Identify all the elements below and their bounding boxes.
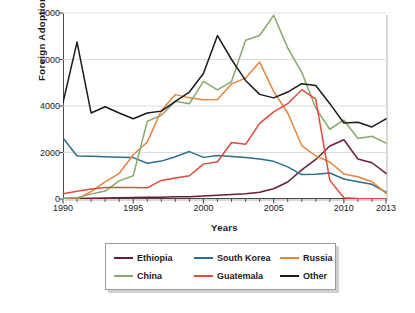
x-axis-tick-1995: 1995 xyxy=(123,203,143,213)
legend-swatch-icon xyxy=(280,257,299,259)
legend-swatch-icon xyxy=(280,275,299,277)
x-axis-tick-2000: 2000 xyxy=(193,203,213,213)
chart-legend: EthiopiaSouth KoreaRussiaChinaGuatemalaO… xyxy=(105,243,336,290)
legend-label: Other xyxy=(303,271,327,281)
legend-item-ethiopia[interactable]: Ethiopia xyxy=(114,253,194,263)
plot-area xyxy=(63,13,386,199)
x-axis-tick-2013: 2013 xyxy=(376,203,396,213)
legend-swatch-icon xyxy=(194,275,213,277)
legend-label: Guatemala xyxy=(217,271,263,281)
legend-item-other[interactable]: Other xyxy=(280,271,345,281)
y-axis-tick-6000: 6000 xyxy=(26,55,60,65)
legend-swatch-icon xyxy=(114,275,133,277)
y-axis-tick-labels: 02000400060008000 xyxy=(24,13,60,199)
legend-label: South Korea xyxy=(217,253,271,263)
legend-item-china[interactable]: China xyxy=(114,271,194,281)
y-axis-tick-4000: 4000 xyxy=(26,101,60,111)
x-axis-title: Years xyxy=(63,222,386,233)
legend-label: Russia xyxy=(303,253,333,263)
legend-item-russia[interactable]: Russia xyxy=(280,253,345,263)
x-axis-tick-2010: 2010 xyxy=(334,203,354,213)
legend-label: Ethiopia xyxy=(137,253,173,263)
legend-swatch-icon xyxy=(114,257,133,259)
y-axis-tick-2000: 2000 xyxy=(26,148,60,158)
legend-item-guatemala[interactable]: Guatemala xyxy=(194,271,280,281)
legend-swatch-icon xyxy=(194,257,213,259)
x-axis-tick-1990: 1990 xyxy=(53,203,73,213)
x-axis-tick-2005: 2005 xyxy=(264,203,284,213)
legend-item-south-korea[interactable]: South Korea xyxy=(194,253,280,263)
foreign-adoptions-line-chart: Foreign Adoptions 02000400060008000 1990… xyxy=(0,0,415,313)
legend-label: China xyxy=(137,271,162,281)
x-axis-tick-labels: 199019952000200520102013 xyxy=(63,201,386,219)
y-axis-tick-8000: 8000 xyxy=(26,8,60,18)
